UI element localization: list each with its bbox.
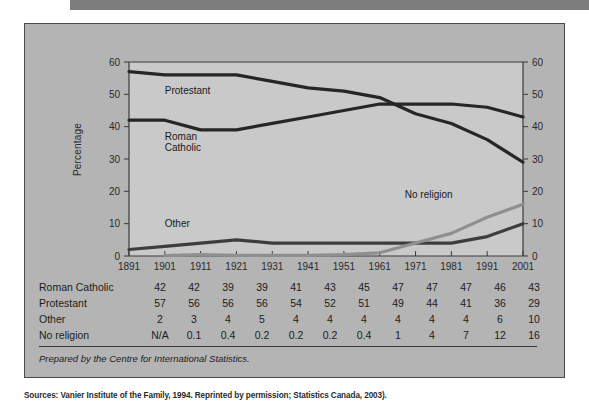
y-tick-label-left: 10 bbox=[109, 218, 121, 229]
series-label-no-religion: No religion bbox=[405, 189, 453, 200]
series-label-other: Other bbox=[165, 218, 191, 229]
x-tick-label: 1991 bbox=[476, 261, 499, 272]
table-cell: 0.4 bbox=[347, 327, 381, 343]
religion-affiliation-line-chart: 0010102020303040405050606018911901191119… bbox=[25, 24, 566, 274]
table-cell: 12 bbox=[483, 327, 517, 343]
top-decorative-bar bbox=[70, 0, 589, 10]
table-body: 1891190119111921193119411951196119711981… bbox=[39, 279, 551, 343]
table-cell: 39 bbox=[245, 279, 279, 295]
y-tick-label-left: 50 bbox=[109, 89, 121, 100]
table-cell: 36 bbox=[483, 295, 517, 311]
table-cell: 0.2 bbox=[313, 327, 347, 343]
y-tick-label-right: 0 bbox=[532, 251, 538, 262]
x-tick-label: 1911 bbox=[190, 261, 212, 272]
y-tick-label-right: 20 bbox=[532, 186, 544, 197]
y-tick-label-right: 10 bbox=[532, 218, 544, 229]
y-tick-label-left: 30 bbox=[109, 154, 121, 165]
source-note: Sources: Vanier Institute of the Family,… bbox=[24, 391, 387, 400]
table-cell: 49 bbox=[381, 295, 415, 311]
table-cell: 4 bbox=[347, 311, 381, 327]
table-row-label: Other bbox=[39, 311, 143, 327]
table-cell: 42 bbox=[177, 279, 211, 295]
table-row-label: No religion bbox=[39, 327, 143, 343]
table-cell: 46 bbox=[483, 279, 517, 295]
figure-caption: Prepared by the Centre for International… bbox=[39, 353, 250, 364]
table-cell: 42 bbox=[143, 279, 177, 295]
table-cell: 47 bbox=[381, 279, 415, 295]
y-tick-label-left: 20 bbox=[109, 186, 121, 197]
x-tick-label: 1901 bbox=[154, 261, 177, 272]
y-tick-label-right: 30 bbox=[532, 154, 544, 165]
table-row-label: Roman Catholic bbox=[39, 279, 143, 295]
table-cell: 57 bbox=[143, 295, 177, 311]
table-cell: 41 bbox=[449, 295, 483, 311]
x-tick-label: 1941 bbox=[297, 261, 320, 272]
table-cell: 0.4 bbox=[211, 327, 245, 343]
table-cell: 1 bbox=[381, 327, 415, 343]
x-tick-label: 2001 bbox=[512, 261, 535, 272]
table-cell: 47 bbox=[415, 279, 449, 295]
table-cell: 56 bbox=[177, 295, 211, 311]
data-table: 1891190119111921193119411951196119711981… bbox=[39, 279, 551, 343]
table-cell: 6 bbox=[483, 311, 517, 327]
table-cell: 7 bbox=[449, 327, 483, 343]
table-cell: 4 bbox=[381, 311, 415, 327]
table-cell: 51 bbox=[347, 295, 381, 311]
y-tick-label-left: 60 bbox=[109, 57, 121, 68]
table-cell: 44 bbox=[415, 295, 449, 311]
table-row: Other2345444444610 bbox=[39, 311, 551, 327]
table-cell: 29 bbox=[517, 295, 551, 311]
table-cell: 0.2 bbox=[245, 327, 279, 343]
table-row: Protestant575656565452514944413629 bbox=[39, 295, 551, 311]
y-tick-label-right: 50 bbox=[532, 89, 544, 100]
table-cell: 45 bbox=[347, 279, 381, 295]
x-tick-label: 1951 bbox=[333, 261, 356, 272]
table-cell: 39 bbox=[211, 279, 245, 295]
table-cell: 47 bbox=[449, 279, 483, 295]
y-tick-label-left: 40 bbox=[109, 121, 121, 132]
table-cell: 56 bbox=[211, 295, 245, 311]
table-row: No religionN/A0.10.40.20.20.20.41471216 bbox=[39, 327, 551, 343]
table-row: Roman Catholic424239394143454747474643 bbox=[39, 279, 551, 295]
table-cell: 2 bbox=[143, 311, 177, 327]
table-cell: 4 bbox=[415, 311, 449, 327]
table-cell: 4 bbox=[279, 311, 313, 327]
x-tick-label: 1971 bbox=[404, 261, 427, 272]
table-cell: 43 bbox=[313, 279, 347, 295]
table-cell: 10 bbox=[517, 311, 551, 327]
table-cell: 52 bbox=[313, 295, 347, 311]
table-cell: 16 bbox=[517, 327, 551, 343]
table-cell: 4 bbox=[313, 311, 347, 327]
table-cell: 5 bbox=[245, 311, 279, 327]
table-cell: 4 bbox=[449, 311, 483, 327]
table-cell: 3 bbox=[177, 311, 211, 327]
x-tick-label: 1931 bbox=[261, 261, 284, 272]
table-cell: 41 bbox=[279, 279, 313, 295]
y-tick-label-right: 40 bbox=[532, 121, 544, 132]
series-label-protestant: Protestant bbox=[165, 85, 211, 96]
figure-frame: Percentage 00101020203030404050506060189… bbox=[24, 23, 565, 378]
y-tick-label-left: 0 bbox=[114, 251, 120, 262]
table-cell: 4 bbox=[415, 327, 449, 343]
x-tick-label: 1961 bbox=[369, 261, 392, 272]
table-cell: 54 bbox=[279, 295, 313, 311]
series-label-roman-catholic-2: Catholic bbox=[165, 142, 201, 153]
y-tick-label-right: 60 bbox=[532, 57, 544, 68]
table-cell: 4 bbox=[211, 311, 245, 327]
table-cell: 0.1 bbox=[177, 327, 211, 343]
table-cell: 56 bbox=[245, 295, 279, 311]
table-cell: 43 bbox=[517, 279, 551, 295]
table-cell: N/A bbox=[143, 327, 177, 343]
table-cell: 0.2 bbox=[279, 327, 313, 343]
x-tick-label: 1921 bbox=[225, 261, 248, 272]
x-tick-label: 1981 bbox=[440, 261, 463, 272]
series-label-roman-catholic: Roman bbox=[165, 131, 197, 142]
x-tick-label: 1891 bbox=[118, 261, 141, 272]
table-row-label: Protestant bbox=[39, 295, 143, 311]
caption-divider bbox=[39, 346, 537, 347]
